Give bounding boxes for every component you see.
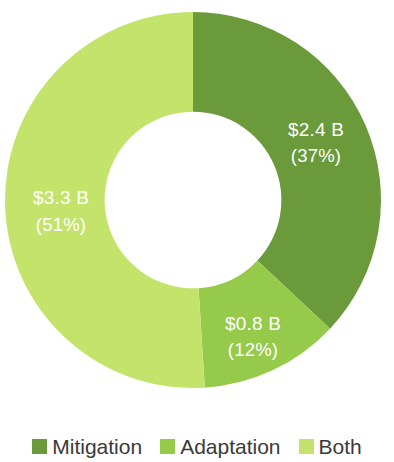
legend-label-mitigation: Mitigation — [52, 436, 142, 457]
slice-value-label-adaptation: $0.8 B — [225, 313, 281, 334]
donut-chart: $2.4 B (37%) $0.8 B (12%) $3.3 B (51%) — [0, 0, 394, 404]
slice-value-label-both: $3.3 B — [33, 187, 89, 208]
legend-item-adaptation[interactable]: Adaptation — [160, 436, 280, 457]
legend-swatch-icon-mitigation — [32, 439, 47, 454]
legend-item-both[interactable]: Both — [299, 436, 362, 457]
legend-swatch-icon-both — [299, 439, 314, 454]
slice-percent-label-adaptation: (12%) — [228, 339, 278, 360]
slice-value-label-mitigation: $2.4 B — [288, 119, 344, 140]
legend-item-mitigation[interactable]: Mitigation — [32, 436, 142, 457]
slice-mitigation[interactable] — [193, 12, 381, 329]
slice-percent-label-both: (51%) — [36, 214, 86, 235]
legend-label-adaptation: Adaptation — [180, 436, 280, 457]
legend-label-both: Both — [319, 436, 362, 457]
donut-chart-svg: $2.4 B (37%) $0.8 B (12%) $3.3 B (51%) — [0, 0, 394, 404]
legend-swatch-icon-adaptation — [160, 439, 175, 454]
chart-legend: Mitigation Adaptation Both — [0, 430, 394, 462]
slice-percent-label-mitigation: (37%) — [291, 145, 341, 166]
